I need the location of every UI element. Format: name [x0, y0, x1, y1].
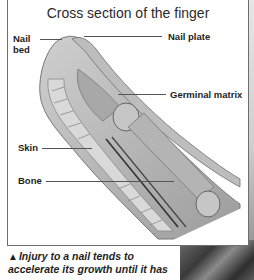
leader-germinal-matrix [118, 94, 166, 95]
background-photo [180, 240, 254, 280]
label-skin: Skin [18, 142, 38, 153]
label-nail-bed-line1: Nail [13, 33, 30, 44]
label-bone: Bone [18, 175, 42, 186]
label-nail-bed: Nail bed [13, 33, 30, 55]
caption-text: Injury to a nail tends to accelerate its… [8, 250, 168, 275]
leader-nail-bed [40, 39, 62, 40]
diagram-panel: Cross section of the finger [7, 0, 249, 246]
label-germinal-matrix: Germinal matrix [170, 89, 242, 100]
leader-bone [46, 181, 174, 182]
leader-skin [42, 148, 92, 149]
triangle-marker-icon: ▲ [8, 251, 18, 262]
leader-nail-plate [84, 36, 162, 37]
label-nail-plate: Nail plate [168, 31, 210, 42]
caption: ▲Injury to a nail tends to accelerate it… [8, 250, 183, 276]
label-nail-bed-line2: bed [13, 44, 30, 55]
background-photo-edge [249, 0, 254, 240]
